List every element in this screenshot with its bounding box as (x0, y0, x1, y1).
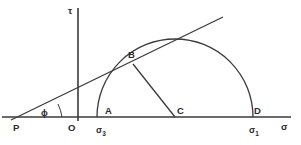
mohr-circle-figure: τ σ P O A B C D ϕ σ3 σ1 (0, 0, 301, 145)
tau-axis-label: τ (68, 5, 73, 16)
sigma3-label: σ3 (96, 125, 106, 137)
point-label-o: O (68, 122, 75, 133)
sigma1-label: σ1 (249, 125, 259, 137)
radius-line-bc (133, 64, 175, 117)
mohr-circle-arc (97, 39, 253, 117)
mohr-diagram-canvas: τ σ P O A B C D ϕ σ3 σ1 (0, 0, 301, 145)
point-label-p: P (13, 122, 20, 133)
sigma1-subscript: 1 (255, 130, 259, 137)
point-label-b: B (128, 49, 135, 60)
friction-angle-arc (58, 104, 62, 117)
failure-envelope-line (11, 17, 223, 120)
sigma3-subscript: 3 (102, 130, 106, 137)
friction-angle-label: ϕ (41, 108, 48, 118)
sigma-axis-label: σ (281, 121, 288, 132)
point-label-c: C (177, 105, 184, 116)
point-label-a: A (105, 105, 112, 116)
point-label-d: D (254, 105, 261, 116)
